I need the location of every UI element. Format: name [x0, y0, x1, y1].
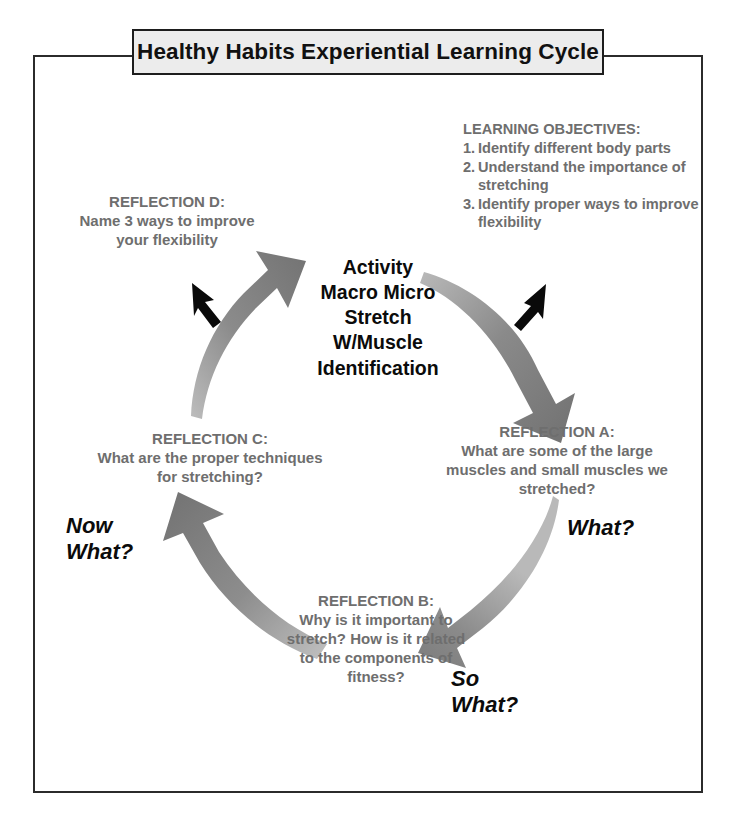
reflection-d: REFLECTION D: Name 3 ways to improve you…	[72, 193, 262, 250]
activity-line: W/Muscle	[283, 330, 473, 355]
prompt-what-line: What?	[567, 515, 634, 541]
objective-number: 3.	[463, 195, 478, 213]
reflection-a-label: REFLECTION A:	[441, 423, 673, 442]
reflection-b-label: REFLECTION B:	[286, 592, 466, 611]
reflection-d-label: REFLECTION D:	[72, 193, 262, 212]
learning-objectives: LEARNING OBJECTIVES: 1. Identify differe…	[463, 120, 715, 231]
list-item: 3. Identify proper ways to improve flexi…	[463, 195, 715, 232]
objective-text: Understand the importance of stretching	[478, 158, 715, 195]
learning-objectives-heading: LEARNING OBJECTIVES:	[463, 120, 715, 138]
activity-line: Activity	[283, 255, 473, 280]
reflection-c-label: REFLECTION C:	[95, 430, 325, 449]
list-item: 1. Identify different body parts	[463, 139, 715, 157]
reflection-b: REFLECTION B: Why is it important to str…	[286, 592, 466, 686]
prompt-what: What?	[567, 515, 634, 541]
prompt-now-line: Now	[66, 513, 133, 539]
prompt-so-what: So What?	[451, 666, 518, 718]
objective-text: Identify different body parts	[478, 139, 715, 157]
activity-line: Macro Micro	[283, 280, 473, 305]
objective-number: 2.	[463, 158, 478, 176]
title-banner: Healthy Habits Experiential Learning Cyc…	[132, 29, 604, 75]
page-title: Healthy Habits Experiential Learning Cyc…	[137, 39, 599, 65]
prompt-so-line: So	[451, 666, 518, 692]
reflection-c-text: What are the proper techniques for stret…	[97, 449, 322, 485]
reflection-a: REFLECTION A: What are some of the large…	[441, 423, 673, 499]
objective-number: 1.	[463, 139, 478, 157]
objective-text: Identify proper ways to improve flexibil…	[478, 195, 715, 232]
reflection-d-text: Name 3 ways to improve your flexibility	[79, 212, 254, 248]
prompt-so-line: What?	[451, 692, 518, 718]
learning-objectives-list: 1. Identify different body parts 2. Unde…	[463, 139, 715, 231]
activity-center: Activity Macro Micro Stretch W/Muscle Id…	[283, 255, 473, 381]
activity-line: Stretch	[283, 305, 473, 330]
reflection-b-text: Why is it important to stretch? How is i…	[287, 611, 465, 685]
activity-line: Identification	[283, 356, 473, 381]
prompt-now-line: What?	[66, 539, 133, 565]
prompt-now-what: Now What?	[66, 513, 133, 565]
reflection-c: REFLECTION C: What are the proper techni…	[95, 430, 325, 487]
reflection-a-text: What are some of the large muscles and s…	[446, 442, 668, 497]
list-item: 2. Understand the importance of stretchi…	[463, 158, 715, 195]
